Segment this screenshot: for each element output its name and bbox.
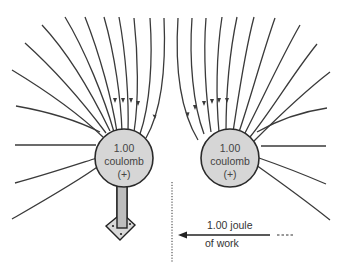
arrowhead	[202, 101, 206, 106]
left-field-lines	[12, 17, 164, 219]
charge-value: 1.00	[220, 142, 241, 154]
work-label-line1: 1.00 joule	[207, 219, 253, 231]
field-line	[191, 18, 204, 134]
charge-unit: coulomb	[210, 155, 250, 167]
field-line	[140, 18, 151, 134]
charge-unit: coulomb	[104, 155, 144, 167]
arrowhead	[121, 98, 125, 103]
charge-value: 1.00	[114, 142, 135, 154]
field-line	[217, 17, 222, 132]
arrowhead	[129, 98, 133, 103]
diagram: 1.00 coulomb (+) 1.00 coulomb (+) 1.00 j…	[0, 0, 343, 274]
field-line	[259, 158, 326, 184]
base-rivet	[129, 223, 131, 225]
field-line	[254, 72, 330, 141]
arrowhead	[225, 98, 229, 103]
charge-sign: (+)	[117, 168, 130, 180]
base-rivet	[120, 233, 122, 235]
field-line	[65, 17, 114, 132]
field-line	[104, 17, 122, 132]
charge-stand	[106, 186, 135, 240]
work-arrow: 1.00 joule of work	[178, 219, 294, 249]
field-line	[177, 18, 198, 140]
charge-sign: (+)	[223, 168, 236, 180]
arrowhead	[113, 98, 117, 103]
field-line	[119, 17, 128, 132]
field-line	[146, 18, 164, 138]
field-line	[25, 43, 106, 133]
field-line	[233, 17, 254, 132]
field-diagram: 1.00 coulomb (+) 1.00 coulomb (+) 1.00 j…	[0, 0, 343, 274]
field-line	[256, 165, 330, 220]
moving-charge: 1.00 coulomb (+)	[201, 129, 259, 187]
field-line	[42, 25, 110, 131]
stand-post-top	[117, 186, 127, 228]
right-field-lines	[177, 17, 330, 220]
field-line	[205, 18, 211, 132]
field-line	[12, 165, 100, 219]
fixed-charge: 1.00 coulomb (+)	[95, 129, 153, 187]
arrowhead	[178, 232, 187, 239]
work-label-line2: of work	[205, 237, 240, 249]
arrowhead	[210, 99, 214, 104]
base-rivet	[112, 225, 114, 227]
field-line	[239, 18, 275, 132]
field-line	[134, 18, 137, 132]
field-line	[15, 158, 97, 183]
field-line	[85, 17, 117, 132]
